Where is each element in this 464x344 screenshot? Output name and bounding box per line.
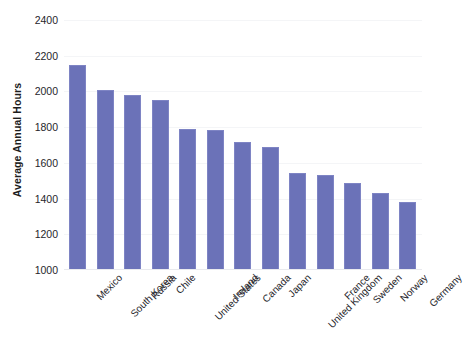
bar[interactable] [152, 100, 169, 270]
bar-slot [339, 20, 367, 270]
bar[interactable] [124, 95, 141, 270]
y-axis-tick-label: 1800 [10, 121, 58, 133]
bar-slot [202, 20, 230, 270]
y-axis-tick-labels: 24002200200018001600140012001000 [6, 20, 58, 270]
x-axis-tick-label: Ireland [231, 272, 260, 301]
bar-slot [229, 20, 257, 270]
bar-slot [367, 20, 395, 270]
y-axis-tick-label: 1400 [10, 193, 58, 205]
bar[interactable] [179, 129, 196, 270]
bar[interactable] [289, 173, 306, 270]
x-axis-tick-label: Mexico [94, 272, 124, 302]
bar-slot [147, 20, 175, 270]
x-axis-tick-label: Chile [174, 272, 198, 296]
bar[interactable] [372, 193, 389, 270]
bar[interactable] [262, 147, 279, 270]
bar-slot [92, 20, 120, 270]
bar-slot [394, 20, 422, 270]
bar[interactable] [317, 175, 334, 270]
bar-slot [174, 20, 202, 270]
plot-area [64, 20, 422, 270]
bar[interactable] [344, 183, 361, 270]
bar-slot [312, 20, 340, 270]
axis-baseline [64, 269, 422, 270]
bar-slot [284, 20, 312, 270]
x-axis-tick-labels: MexicoSouth KoreaRussiaChileUnited State… [64, 272, 422, 344]
x-axis-tick-label: Germany [427, 272, 464, 309]
bar[interactable] [207, 130, 224, 270]
y-axis-tick-label: 1000 [10, 264, 58, 276]
bar[interactable] [399, 202, 416, 270]
x-axis-tick-label: Norway [398, 272, 430, 304]
y-axis-tick-label: 1200 [10, 228, 58, 240]
y-axis-tick-label: 2200 [10, 50, 58, 62]
bar-slot [119, 20, 147, 270]
bar[interactable] [69, 65, 86, 270]
bar-slot [257, 20, 285, 270]
y-axis-tick-label: 1600 [10, 157, 58, 169]
y-axis-tick-label: 2000 [10, 85, 58, 97]
y-axis-tick-label: 2400 [10, 14, 58, 26]
bar-slot [64, 20, 92, 270]
bar[interactable] [97, 90, 114, 270]
bar[interactable] [234, 142, 251, 270]
